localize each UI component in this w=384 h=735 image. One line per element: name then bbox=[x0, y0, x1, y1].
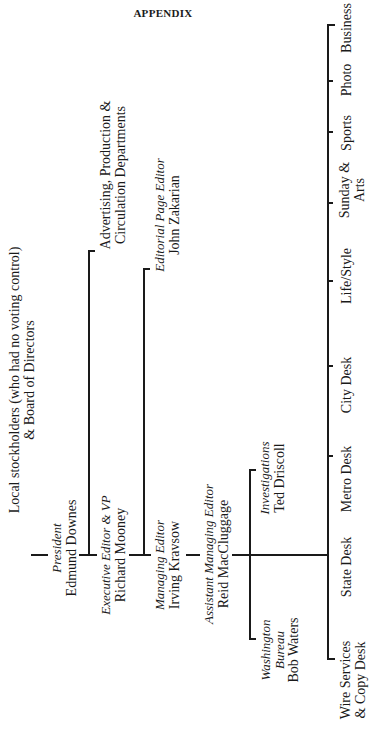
node-executive-editor: Executive Editor & VP Richard Mooney bbox=[98, 495, 128, 614]
desk-tick-business bbox=[327, 24, 335, 26]
page-heading: APPENDIX bbox=[0, 7, 326, 19]
stockholders-line1: Local stockholders (who had no voting co… bbox=[7, 247, 22, 514]
executive-editor-name: Richard Mooney bbox=[113, 495, 128, 614]
connector-exec-managing bbox=[129, 554, 151, 556]
desk-tick-wire bbox=[327, 658, 335, 660]
desk-business: Business bbox=[339, 3, 354, 53]
advertising-line2: Circulation Departments bbox=[113, 101, 128, 250]
editorial-page-title: Editorial Page Editor bbox=[152, 158, 167, 271]
desk-state: State Desk bbox=[339, 537, 354, 597]
desk-sports: Sports bbox=[339, 115, 354, 151]
node-managing-editor: Managing Editor Irving Kravsow bbox=[152, 520, 182, 610]
connector-desks-bus bbox=[327, 24, 329, 659]
president-title: President bbox=[49, 500, 64, 597]
connector-root-president bbox=[31, 554, 48, 556]
investigations-name: Ted Driscoll bbox=[272, 442, 287, 515]
desk-city: City Desk bbox=[339, 357, 354, 413]
washington-title1: Washington bbox=[259, 617, 273, 682]
connector-editorial-tick bbox=[143, 268, 150, 270]
desk-tick-photo bbox=[327, 80, 333, 82]
connector-advertising-tick bbox=[88, 250, 95, 252]
node-assistant-managing-editor: Assistant Managing Editor Reid MacClugga… bbox=[201, 484, 231, 624]
node-president: President Edmund Downes bbox=[49, 500, 79, 597]
advertising-line1: Advertising, Production & bbox=[98, 101, 113, 250]
desk-tick-sunday bbox=[327, 202, 333, 204]
connector-assistant-desks bbox=[232, 554, 328, 556]
connector-investigations-tick bbox=[249, 469, 256, 471]
desk-tick-sports bbox=[327, 131, 333, 133]
washington-title2: Bureau bbox=[273, 617, 287, 682]
connector-editorial-vertical bbox=[143, 268, 145, 556]
washington-name: Bob Waters bbox=[287, 617, 301, 682]
connector-bureau-vertical bbox=[249, 469, 251, 639]
desk-lifestyle: Life/Style bbox=[339, 248, 354, 304]
assistant-managing-name: Reid MacCluggage bbox=[216, 484, 231, 624]
investigations-title: Investigations bbox=[257, 442, 272, 515]
node-stockholders: Local stockholders (who had no voting co… bbox=[7, 247, 37, 514]
desk-tick-lifestyle bbox=[327, 280, 333, 282]
assistant-managing-title: Assistant Managing Editor bbox=[201, 484, 216, 624]
desk-metro: Metro Desk bbox=[339, 446, 354, 513]
node-editorial-page-editor: Editorial Page Editor John Zakarian bbox=[152, 158, 182, 271]
managing-editor-title: Managing Editor bbox=[152, 520, 167, 610]
desk-tick-metro bbox=[327, 455, 333, 457]
editorial-page-name: John Zakarian bbox=[167, 158, 182, 271]
stockholders-line2: & Board of Directors bbox=[22, 247, 37, 514]
president-name: Edmund Downes bbox=[64, 500, 79, 597]
desk-tick-city bbox=[327, 365, 333, 367]
node-investigations: Investigations Ted Driscoll bbox=[257, 442, 287, 515]
desk-sunday-arts: Sunday & Arts bbox=[337, 162, 367, 218]
connector-advertising-vertical bbox=[88, 250, 90, 556]
node-advertising: Advertising, Production & Circulation De… bbox=[98, 101, 128, 250]
managing-editor-name: Irving Kravsow bbox=[167, 520, 182, 610]
node-washington-bureau: Washington Bureau Bob Waters bbox=[259, 617, 301, 682]
connector-washington-tick bbox=[249, 638, 256, 640]
connector-managing-assistant bbox=[186, 554, 200, 556]
desk-wire-services: Wire Services & Copy Desk bbox=[338, 641, 368, 719]
desk-photo: Photo bbox=[339, 64, 354, 97]
executive-editor-title: Executive Editor & VP bbox=[98, 495, 113, 614]
